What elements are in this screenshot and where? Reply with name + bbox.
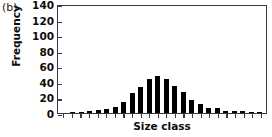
y-axis-tick-label: 60 [20,62,54,72]
bar-slot [103,6,112,113]
x-axis-tick-mark [192,113,193,118]
y-axis-tick-mark [58,6,62,7]
y-axis-tick-label: 100 [20,31,54,41]
bar-slot [188,6,197,113]
x-axis-tick-mark [80,113,81,118]
bar-series [60,6,264,113]
bar-slot [205,6,214,113]
figure-panel-b: (b) Frequency 140120100806040200 Size cl… [0,0,272,137]
bar-slot [120,6,129,113]
bar-slot [77,6,86,113]
bar [181,92,186,113]
x-axis-title: Size class [57,120,267,132]
y-axis-tick-label: 20 [20,93,54,103]
bar-slot [94,6,103,113]
bar-slot [69,6,78,113]
y-axis-tick-label: 40 [20,78,54,88]
bar-slot [137,6,146,113]
bar [147,79,152,113]
bar-slot [171,6,180,113]
y-axis-tick-label: 120 [20,16,54,26]
x-axis-tick-mark [209,113,210,118]
y-axis-tick-mark [58,37,62,38]
bar-slot [86,6,95,113]
x-axis-tick-mark [252,113,253,118]
bar [189,100,194,113]
y-axis-tick-label: 0 [20,109,54,119]
x-axis-tick-mark [175,113,176,118]
x-axis-tick-mark [132,113,133,118]
y-axis-tick-label: 140 [20,0,54,10]
x-axis-tick-mark [89,113,90,118]
bar-slot [230,6,239,113]
bar [130,93,135,113]
y-axis-tick-mark [58,53,62,54]
y-axis-tick-label: 80 [20,47,54,57]
x-axis-tick-mark [123,113,124,118]
x-axis-tick-mark [261,113,262,118]
bar [155,76,160,113]
x-axis-tick-mark [166,113,167,118]
x-axis-tick-mark [141,113,142,118]
bar-slot [239,6,248,113]
bar-slot [128,6,137,113]
x-axis-tick-mark [98,113,99,118]
bar-slot [222,6,231,113]
bar [121,102,126,113]
bar-slot [213,6,222,113]
x-axis-tick-mark [244,113,245,118]
y-axis-tick-mark [58,68,62,69]
x-axis-tick-marks [57,113,267,119]
bar-slot [256,6,265,113]
x-axis-tick-mark [63,113,64,118]
plot-inner [58,6,266,113]
bar-slot [145,6,154,113]
bar-slot [154,6,163,113]
bar-slot [196,6,205,113]
x-axis-tick-mark [226,113,227,118]
bar-slot [179,6,188,113]
x-axis-tick-mark [158,113,159,118]
y-axis-tick-mark [58,84,62,85]
bar-slot [111,6,120,113]
bar-slot [247,6,256,113]
y-axis-tick-mark [58,22,62,23]
x-axis-tick-mark [183,113,184,118]
bar [172,86,177,113]
plot-area [57,5,267,114]
x-axis-tick-mark [149,113,150,118]
bar [164,79,169,113]
x-axis-tick-mark [235,113,236,118]
x-axis-tick-mark [106,113,107,118]
bar-slot [162,6,171,113]
bar [198,104,203,113]
x-axis-tick-mark [72,113,73,118]
x-axis-tick-mark [115,113,116,118]
bar [138,87,143,113]
y-axis-tick-mark [58,99,62,100]
x-axis-tick-mark [201,113,202,118]
y-axis-tick-labels: 140120100806040200 [20,0,54,137]
x-axis-tick-mark [218,113,219,118]
